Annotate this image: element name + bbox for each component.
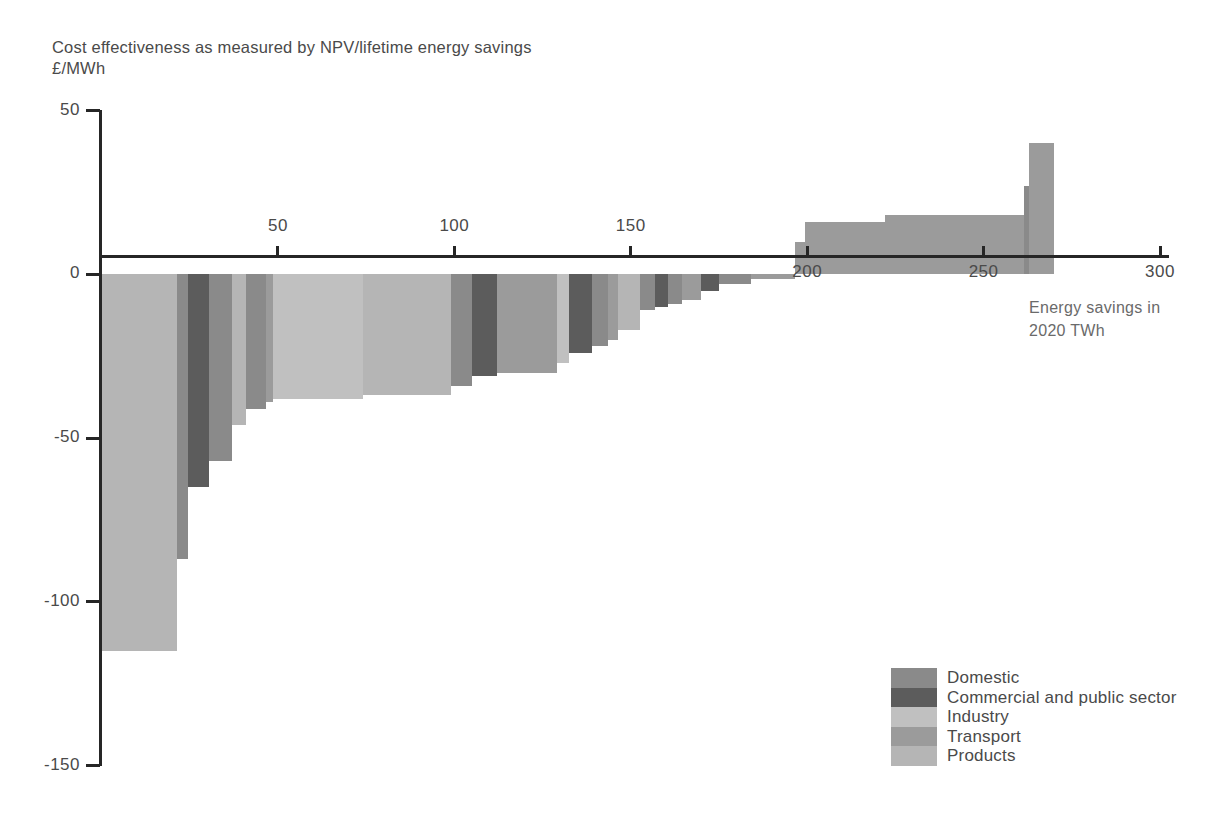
bar bbox=[608, 274, 619, 340]
bar bbox=[177, 274, 188, 559]
y-axis-tick-label: 50 bbox=[60, 100, 80, 120]
legend-item[interactable]: Commercial and public sector bbox=[891, 688, 1177, 708]
bar bbox=[472, 274, 497, 376]
x-axis-tick bbox=[982, 246, 985, 258]
bar bbox=[751, 274, 795, 279]
legend-swatch bbox=[891, 746, 937, 766]
x-axis-tick bbox=[276, 246, 279, 258]
legend-label: Industry bbox=[947, 707, 1009, 727]
bar bbox=[451, 274, 472, 385]
bar bbox=[557, 274, 569, 362]
legend-swatch bbox=[891, 668, 937, 688]
x-axis-line bbox=[99, 255, 1169, 258]
x-axis-tick-label: 100 bbox=[439, 216, 469, 236]
bar bbox=[668, 274, 682, 303]
bar bbox=[273, 274, 363, 398]
x-axis-tick-label: 250 bbox=[969, 262, 999, 282]
bar bbox=[701, 274, 719, 290]
legend-label: Commercial and public sector bbox=[947, 688, 1177, 708]
x-axis-tick-label: 150 bbox=[616, 216, 646, 236]
y-axis-tick bbox=[86, 273, 100, 276]
legend-swatch bbox=[891, 727, 937, 747]
y-axis-tick-label: -150 bbox=[44, 755, 80, 775]
legend-item[interactable]: Transport bbox=[891, 727, 1177, 747]
bar bbox=[102, 274, 178, 651]
legend-label: Domestic bbox=[947, 668, 1019, 688]
x-axis-tick bbox=[629, 246, 632, 258]
bar bbox=[885, 215, 1024, 274]
y-axis-tick-label: 0 bbox=[70, 263, 80, 283]
legend-swatch bbox=[891, 707, 937, 727]
bar bbox=[618, 274, 639, 330]
bar bbox=[655, 274, 667, 307]
legend-item[interactable]: Products bbox=[891, 746, 1177, 766]
legend-item[interactable]: Industry bbox=[891, 707, 1177, 727]
bar bbox=[682, 274, 701, 300]
bar bbox=[719, 274, 751, 284]
chart-canvas: Cost effectiveness as measured by NPV/li… bbox=[0, 0, 1216, 821]
bar bbox=[363, 274, 451, 395]
legend-label: Transport bbox=[947, 727, 1021, 747]
bar bbox=[232, 274, 246, 425]
legend-item[interactable]: Domestic bbox=[891, 668, 1177, 688]
bar bbox=[497, 274, 557, 372]
x-axis-tick bbox=[1159, 246, 1162, 258]
legend: DomesticCommercial and public sectorIndu… bbox=[891, 668, 1177, 766]
x-axis-tick-label: 300 bbox=[1145, 262, 1175, 282]
bar bbox=[266, 274, 273, 402]
y-axis-tick bbox=[86, 600, 100, 603]
bar bbox=[188, 274, 209, 487]
x-axis-tick-label: 50 bbox=[268, 216, 288, 236]
bar bbox=[592, 274, 608, 346]
legend-swatch bbox=[891, 688, 937, 708]
y-axis-tick bbox=[86, 437, 100, 440]
x-axis-tick bbox=[806, 246, 809, 258]
bar bbox=[246, 274, 265, 408]
bar bbox=[569, 274, 592, 353]
bar bbox=[640, 274, 656, 310]
bar bbox=[209, 274, 232, 461]
y-axis-tick-label: -50 bbox=[54, 427, 80, 447]
y-axis-tick-label: -100 bbox=[44, 591, 80, 611]
x-axis-tick bbox=[453, 246, 456, 258]
x-axis-tick-label: 200 bbox=[792, 262, 822, 282]
y-axis-tick bbox=[86, 764, 100, 767]
y-axis-tick bbox=[86, 109, 100, 112]
legend-label: Products bbox=[947, 746, 1016, 766]
